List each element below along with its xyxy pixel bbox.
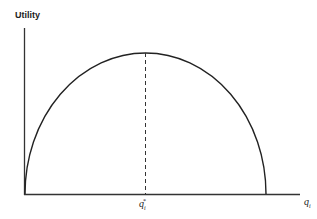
peak-label-sub: i bbox=[144, 205, 146, 211]
chart-canvas bbox=[0, 0, 317, 219]
x-axis-label: qi bbox=[304, 196, 311, 209]
peak-label: qi* bbox=[139, 198, 146, 211]
peak-label-sup: * bbox=[143, 198, 146, 204]
x-axis-label-sub: i bbox=[309, 203, 311, 209]
y-axis-label: Utility bbox=[15, 10, 40, 20]
